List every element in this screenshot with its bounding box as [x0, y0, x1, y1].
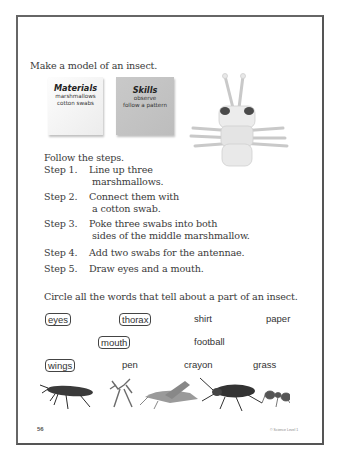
step-4: Step 4. Add two swabs for the antennae.: [44, 247, 89, 258]
word-grass[interactable]: grass: [251, 359, 278, 370]
beetle-bug-image: [40, 384, 93, 409]
word-crayon[interactable]: crayon: [182, 359, 215, 370]
step-label: Step 5.: [44, 263, 89, 274]
publisher-credit: © Science Level 1: [270, 428, 298, 432]
skills-heading: Skills: [116, 85, 174, 95]
materials-item: marshmallows: [48, 93, 103, 100]
step-text: marshmallows.: [92, 176, 163, 187]
grasshopper-image: [140, 381, 198, 409]
ant-image: [262, 391, 290, 407]
step-text: Poke three swabs into both: [89, 218, 217, 229]
word-mouth[interactable]: mouth: [98, 336, 130, 349]
skills-card: Skills observe follow a pattern: [116, 77, 174, 135]
step-3: Step 3. Poke three swabs into both sides…: [44, 218, 89, 229]
word-pen[interactable]: pen: [120, 359, 140, 370]
step-label: Step 2.: [44, 191, 89, 202]
step-text: Connect them with: [89, 191, 179, 202]
step-text: sides of the middle marshmallow.: [92, 230, 250, 241]
materials-heading: Materials: [48, 83, 103, 93]
step-2: Step 2. Connect them with a cotton swab.: [44, 191, 89, 202]
activity-prompt: Circle all the words that tell about a p…: [44, 291, 298, 302]
ground-beetle-image: [200, 378, 262, 411]
praying-mantis-image: [110, 379, 132, 407]
word-wings[interactable]: wings: [45, 359, 75, 372]
step-text: Draw eyes and a mouth.: [89, 263, 204, 274]
word-football[interactable]: football: [192, 336, 227, 347]
step-label: Step 1.: [44, 164, 89, 175]
step-text: Add two swabs for the antennae.: [89, 247, 244, 258]
step-label: Step 3.: [44, 218, 89, 229]
page-number: 56: [37, 426, 44, 432]
step-1: Step 1. Line up three marshmallows.: [44, 164, 89, 175]
insect-photos-row: [40, 375, 290, 420]
word-paper[interactable]: paper: [264, 313, 292, 324]
skills-item: observe: [116, 95, 174, 102]
step-text: a cotton swab.: [92, 203, 161, 214]
skills-item: follow a pattern: [116, 102, 174, 109]
marshmallow-insect-model-image: [185, 68, 295, 178]
step-5: Step 5. Draw eyes and a mouth.: [44, 263, 89, 274]
word-eyes[interactable]: eyes: [45, 313, 71, 326]
word-shirt[interactable]: shirt: [192, 313, 214, 324]
follow-steps-label: Follow the steps.: [44, 152, 124, 163]
materials-card: Materials marshmallows cotton swabs: [48, 77, 103, 135]
step-text: Line up three: [89, 164, 153, 175]
activity-title: Make a model of an insect.: [30, 60, 157, 71]
step-label: Step 4.: [44, 247, 89, 258]
materials-item: cotton swabs: [48, 100, 103, 107]
word-thorax[interactable]: thorax: [119, 313, 151, 326]
